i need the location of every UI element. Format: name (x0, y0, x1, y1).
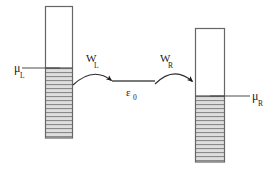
left-electrode (46, 7, 73, 139)
right-electrode-empty-region (196, 29, 225, 97)
w-left-subscript: L (94, 61, 99, 70)
mu-right-subscript: R (258, 99, 263, 108)
central-resonant-level: ε 0 (112, 81, 155, 102)
right-electrode-filled-region (196, 96, 225, 162)
epsilon-zero-symbol: ε (126, 86, 131, 98)
energy-level-diagram: μ L μ R ε 0 W L (0, 0, 276, 172)
right-coupling-arrow (155, 74, 193, 84)
left-electrode-empty-region (46, 7, 73, 69)
w-right-subscript: R (168, 61, 173, 70)
epsilon-zero-subscript: 0 (133, 93, 137, 102)
right-coupling-arrow-group: W R (155, 52, 193, 84)
diagram-canvas: μ L μ R ε 0 W L (0, 0, 276, 172)
left-electrode-filled-region (46, 68, 73, 138)
mu-left-subscript: L (20, 71, 25, 80)
left-coupling-arrow (73, 74, 112, 85)
right-electrode (196, 29, 225, 163)
left-coupling-arrow-group: W L (73, 52, 112, 85)
